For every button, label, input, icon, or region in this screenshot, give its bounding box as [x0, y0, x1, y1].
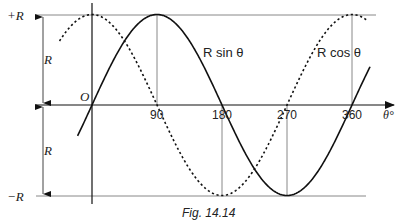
- tick-label-90: 90: [150, 108, 164, 122]
- minus-r-label: −R: [7, 189, 24, 204]
- sine-cosine-diagram: +R −R R R O 90 180 270 360 θ° R sin θ R …: [0, 0, 414, 224]
- plus-r-label: +R: [7, 8, 24, 23]
- origin-label: O: [80, 89, 90, 104]
- sin-curve-label: R sin θ: [203, 45, 243, 60]
- tick-label-180: 180: [212, 108, 232, 122]
- cos-curve-label: R cos θ: [317, 45, 361, 60]
- upper-span-label: R: [43, 52, 52, 67]
- figure-caption: Fig. 14.14: [182, 206, 236, 220]
- x-axis-label: θ°: [383, 108, 394, 122]
- tick-label-270: 270: [277, 108, 297, 122]
- lower-span-label: R: [43, 143, 52, 158]
- tick-label-360: 360: [342, 108, 362, 122]
